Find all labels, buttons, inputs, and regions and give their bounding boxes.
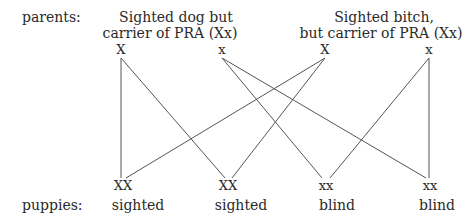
- father-allele-recessive: x: [218, 42, 225, 58]
- puppy3-phenotype: blind: [319, 197, 355, 213]
- puppy4-genotype: xx: [423, 178, 438, 194]
- puppies-label: puppies:: [22, 197, 83, 213]
- father-caption-line1: Sighted dog but: [119, 9, 233, 25]
- mother-allele-recessive: x: [425, 42, 432, 58]
- puppy3-genotype: xx: [319, 178, 334, 194]
- father-caption-line2: carrier of PRA (Xx): [103, 25, 238, 41]
- parents-label: parents:: [22, 9, 81, 25]
- puppy1-phenotype: sighted: [112, 197, 165, 213]
- line-father-x-to-puppy3: [222, 58, 322, 178]
- mother-allele-dominant: X: [320, 42, 329, 58]
- mother-caption-line1: Sighted bitch,: [334, 9, 434, 25]
- puppy2-genotype: XX: [219, 178, 238, 194]
- puppy4-phenotype: blind: [419, 197, 455, 213]
- line-mother-X-to-puppy1: [126, 58, 325, 178]
- line-mother-x-to-puppy3: [330, 58, 429, 178]
- mother-caption-line2: but carrier of PRA (Xx): [300, 25, 463, 41]
- puppy2-phenotype: sighted: [215, 197, 268, 213]
- father-allele-dominant: X: [116, 42, 125, 58]
- line-father-X-to-puppy2: [121, 58, 225, 178]
- line-mother-X-to-puppy2: [232, 58, 325, 178]
- puppy1-genotype: XX: [114, 178, 133, 194]
- line-father-x-to-puppy4: [222, 58, 426, 178]
